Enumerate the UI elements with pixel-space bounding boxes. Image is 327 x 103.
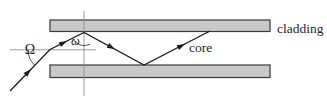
core-label: core <box>189 40 212 55</box>
ray-arrow-icon <box>59 39 69 47</box>
fiber-ray-diagram-canvas: Ω ω core cladding <box>0 0 327 103</box>
ray-arrow-icon <box>107 43 117 52</box>
incidence-angle-label: Ω <box>25 42 35 57</box>
fiber-ray-diagram: Ω ω core cladding <box>0 0 327 103</box>
bottom-cladding-bar <box>50 65 270 78</box>
cladding-label: cladding <box>277 21 324 36</box>
top-cladding-bar <box>50 20 270 32</box>
ray-arrow-icon <box>177 42 187 50</box>
light-ray <box>10 31 210 91</box>
internal-angle-label: ω <box>71 34 80 48</box>
